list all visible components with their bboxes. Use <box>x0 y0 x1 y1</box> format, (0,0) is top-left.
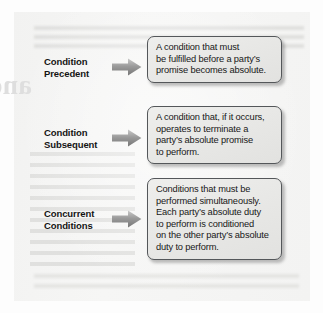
definition-line: Each party’s absolute duty <box>156 207 274 219</box>
scanned-page: and Disc Condition Precedent <box>0 0 323 313</box>
definition-line: operates to terminate a <box>156 124 274 136</box>
row-label-line1: Concurrent <box>44 208 94 219</box>
definition-line: A condition that must <box>156 42 274 54</box>
definition-callout-condition-subsequent: A condition that, if it occurs, operates… <box>147 106 282 164</box>
definition-callout-condition-precedent: A condition that must be fulfilled befor… <box>147 36 282 83</box>
row-label-concurrent-conditions: Concurrent Conditions <box>44 208 114 231</box>
definition-line: to perform. <box>156 147 274 159</box>
definition-callout-concurrent-conditions: Conditions that must be performed simult… <box>147 178 282 260</box>
definition-line: performed simultaneously. <box>156 196 274 208</box>
definition-line: Conditions that must be <box>156 184 274 196</box>
row-label-line2: Subsequent <box>44 139 97 150</box>
definition-line: to perform is conditioned <box>156 219 274 231</box>
right-arrow-icon <box>112 210 142 228</box>
row-label-line2: Conditions <box>44 220 93 231</box>
definition-line: A condition that, if it occurs, <box>156 112 274 124</box>
definition-line: party’s absolute promise <box>156 135 274 147</box>
definition-line: on the other party’s absolute <box>156 230 274 242</box>
definition-line: duty to perform. <box>156 242 274 254</box>
right-arrow-icon <box>112 58 142 76</box>
row-label-line1: Condition <box>44 56 87 67</box>
right-arrow-icon <box>112 129 142 147</box>
row-label-line2: Precedent <box>44 68 89 79</box>
conditions-diagram: Condition Precedent A condition th <box>0 0 323 313</box>
row-label-line1: Condition <box>44 127 87 138</box>
definition-line: be fulfilled before a party’s <box>156 54 274 66</box>
row-label-condition-precedent: Condition Precedent <box>44 56 114 79</box>
definition-line: promise becomes absolute. <box>156 65 274 77</box>
row-label-condition-subsequent: Condition Subsequent <box>44 127 114 150</box>
